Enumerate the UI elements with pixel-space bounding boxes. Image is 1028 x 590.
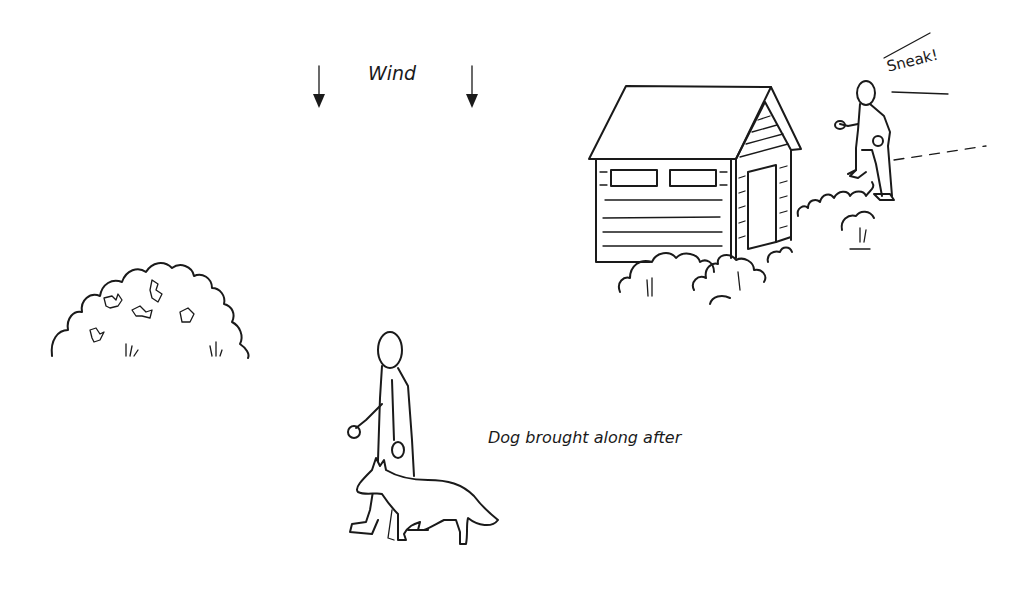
bush-near-sneaker (798, 182, 874, 249)
sneaking-person (835, 81, 894, 200)
bush-shed-right (768, 248, 792, 263)
shed (589, 86, 801, 262)
wind-arrow-right-icon (466, 66, 478, 108)
bush-shed-middle (693, 255, 765, 304)
bush-left (52, 263, 249, 358)
sneak-line-bottom (892, 92, 948, 94)
wind-label: Wind (368, 62, 416, 84)
dog-caption: Dog brought along after (488, 428, 681, 447)
dog (357, 458, 498, 544)
wind-arrow-left-icon (313, 66, 325, 108)
diagram-canvas (0, 0, 1028, 590)
sneak-dashed-line (894, 146, 986, 160)
bush-shed-left (619, 253, 714, 296)
